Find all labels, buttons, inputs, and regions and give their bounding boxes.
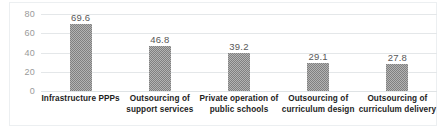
x-axis-label-line: Infrastructure PPPs: [41, 93, 120, 104]
x-axis-label-outsourcing-support-services: Outsourcing of support services: [120, 93, 199, 115]
plot-area: 80 60 40 20 0 69.6 46.8 39.2: [41, 14, 437, 91]
y-axis-tick-60: 60: [25, 28, 35, 38]
y-axis-tick-40: 40: [25, 48, 35, 58]
x-axis-label-outsourcing-curriculum-design: Outsourcing of curriculum design: [279, 93, 358, 115]
y-axis-tick-20: 20: [25, 67, 35, 77]
x-axis-label-private-operation-public-schools: Private operation of public schools: [199, 93, 278, 115]
bar[interactable]: [307, 63, 329, 91]
bar-slot: 29.1: [279, 14, 358, 91]
bar-value-label: 27.8: [388, 52, 407, 63]
bar-slot: 46.8: [120, 14, 199, 91]
x-axis-labels: Infrastructure PPPs Outsourcing of suppo…: [41, 93, 437, 115]
x-axis-label-line: Outsourcing of: [358, 93, 437, 104]
x-axis-label-outsourcing-curriculum-delivery: Outsourcing of curriculum delivery: [358, 93, 437, 115]
bar-value-label: 46.8: [150, 34, 169, 45]
x-axis-label-line: Outsourcing of: [279, 93, 358, 104]
x-axis-label-line: curriculum design: [279, 104, 358, 115]
bar[interactable]: [149, 46, 171, 91]
gridline-0: 0: [41, 91, 437, 92]
x-axis-label-line: support services: [120, 104, 199, 115]
bar-series: 69.6 46.8 39.2 29.1 27.8: [41, 14, 437, 91]
y-axis-tick-80: 80: [25, 9, 35, 19]
bar-slot: 27.8: [358, 14, 437, 91]
x-axis-label-line: public schools: [199, 104, 278, 115]
bar[interactable]: [70, 24, 92, 91]
x-axis-label-line: curriculum delivery: [358, 104, 437, 115]
bar[interactable]: [386, 64, 408, 91]
x-axis-label-infrastructure-ppps: Infrastructure PPPs: [41, 93, 120, 115]
y-axis-tick-0: 0: [30, 86, 35, 96]
chart-frame: 80 60 40 20 0 69.6 46.8 39.2: [9, 2, 437, 126]
bar-slot: 69.6: [41, 14, 120, 91]
bar-value-label: 39.2: [229, 41, 248, 52]
x-axis-label-line: Private operation of: [199, 93, 278, 104]
x-axis-label-line: Outsourcing of: [120, 93, 199, 104]
bar-slot: 39.2: [199, 14, 278, 91]
bar[interactable]: [228, 53, 250, 91]
bar-value-label: 29.1: [309, 51, 328, 62]
bar-value-label: 69.6: [71, 12, 90, 23]
